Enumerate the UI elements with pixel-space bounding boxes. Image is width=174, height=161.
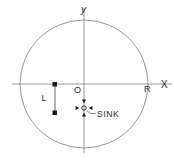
- sink-leader-line: [87, 111, 97, 114]
- radius-label: R: [144, 84, 151, 94]
- dimension-marker-top: [53, 82, 58, 87]
- origin-label: O: [74, 85, 81, 95]
- sink-arrow-down-icon: [82, 100, 86, 104]
- figure-canvas: y X O R L SINK: [0, 0, 174, 161]
- distance-label: L: [41, 93, 46, 103]
- x-axis-label: X: [161, 79, 168, 90]
- sink-diagram: y X O R L SINK: [0, 0, 174, 161]
- sink-arrow-right-icon: [76, 106, 80, 110]
- dimension-marker-bottom: [53, 111, 58, 116]
- sink-arrow-up-icon: [82, 113, 86, 117]
- sink-label: SINK: [97, 109, 119, 119]
- sink-arrow-left-icon: [89, 106, 93, 110]
- y-axis-label: y: [80, 4, 87, 15]
